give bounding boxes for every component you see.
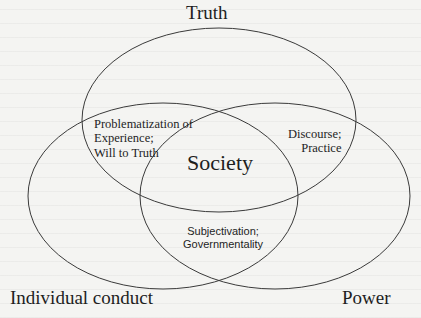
intersection-line: Subjectivation;	[183, 225, 263, 238]
intersection-line: Will to Truth	[94, 146, 193, 160]
truth-label: Truth	[186, 2, 228, 24]
power-label: Power	[342, 287, 391, 309]
individual-power-intersection-label: Subjectivation; Governmentality	[183, 225, 263, 250]
intersection-line: Discourse;	[288, 127, 341, 141]
society-label: Society	[187, 150, 253, 175]
intersection-line: Governmentality	[183, 238, 263, 251]
intersection-line: Practice	[288, 141, 341, 155]
intersection-line: Problematization of	[94, 117, 193, 131]
truth-power-intersection-label: Discourse; Practice	[288, 127, 341, 156]
truth-individual-intersection-label: Problematization of Experience; Will to …	[94, 117, 193, 160]
individual-conduct-label: Individual conduct	[10, 287, 153, 309]
intersection-line: Experience;	[94, 131, 193, 145]
